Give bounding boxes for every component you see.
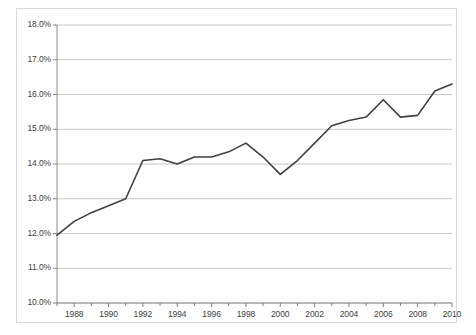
- y-axis-tick-label: 17.0%: [11, 54, 51, 64]
- y-axis-tick-label: 14.0%: [11, 158, 51, 168]
- x-axis-ticks: [57, 303, 452, 307]
- x-axis-tick-label: 2010: [432, 309, 472, 319]
- y-axis-tick-label: 10.0%: [11, 297, 51, 307]
- y-axis-tick-label: 18.0%: [11, 19, 51, 29]
- gridlines: [57, 25, 452, 303]
- y-axis-tick-label: 16.0%: [11, 89, 51, 99]
- data-series-line: [57, 84, 452, 235]
- y-axis-tick-label: 13.0%: [11, 193, 51, 203]
- y-axis-tick-label: 11.0%: [11, 262, 51, 272]
- y-axis-tick-label: 12.0%: [11, 228, 51, 238]
- line-chart-plot: [0, 0, 476, 335]
- y-axis-tick-label: 15.0%: [11, 123, 51, 133]
- y-axis-ticks: [53, 25, 57, 303]
- chart-container: 18.0%17.0%16.0%15.0%14.0%13.0%12.0%11.0%…: [0, 0, 476, 335]
